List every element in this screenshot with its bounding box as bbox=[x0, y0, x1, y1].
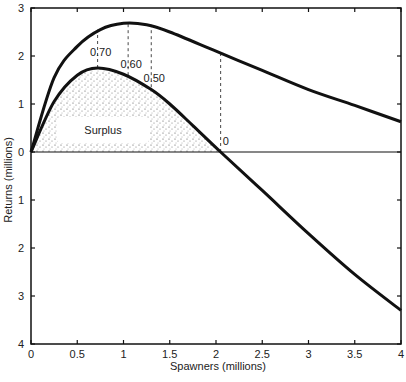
x-tick-label: 1 bbox=[120, 348, 126, 360]
y-tick-label: 2 bbox=[18, 242, 24, 254]
x-axis-title: Spawners (millions) bbox=[170, 360, 266, 372]
y-tick-label: 3 bbox=[18, 290, 24, 302]
annotation-label: Surplus bbox=[84, 124, 122, 136]
annotation-label: 0.60 bbox=[120, 58, 141, 70]
x-tick-label: 1.5 bbox=[162, 348, 177, 360]
x-tick-label: 3 bbox=[305, 348, 311, 360]
y-tick-label: 4 bbox=[18, 338, 24, 350]
plot-frame bbox=[31, 8, 401, 344]
annotation-label: 0.50 bbox=[144, 72, 165, 84]
x-tick-label: 0 bbox=[28, 348, 34, 360]
annotation-label: 0.70 bbox=[90, 46, 111, 58]
x-tick-label: 3.5 bbox=[347, 348, 362, 360]
y-tick-label: 0 bbox=[18, 146, 24, 158]
x-tick-label: 2.5 bbox=[255, 348, 270, 360]
y-tick-label: 3 bbox=[18, 2, 24, 14]
y-tick-label: 2 bbox=[18, 50, 24, 62]
annotation-label: 0 bbox=[223, 135, 229, 147]
x-tick-label: 2 bbox=[213, 348, 219, 360]
y-tick-label: 1 bbox=[18, 98, 24, 110]
y-axis-title: Returns (millions) bbox=[2, 137, 14, 223]
chart: 00.511.522.533.5432101234 0.700.600.500S… bbox=[0, 0, 406, 382]
axis-ticks: 00.511.522.533.5432101234 bbox=[18, 2, 404, 360]
surplus-shaded-area bbox=[31, 68, 221, 152]
x-tick-label: 4 bbox=[398, 348, 404, 360]
y-tick-label: 1 bbox=[18, 194, 24, 206]
x-tick-label: 0.5 bbox=[70, 348, 85, 360]
curves bbox=[31, 23, 401, 310]
